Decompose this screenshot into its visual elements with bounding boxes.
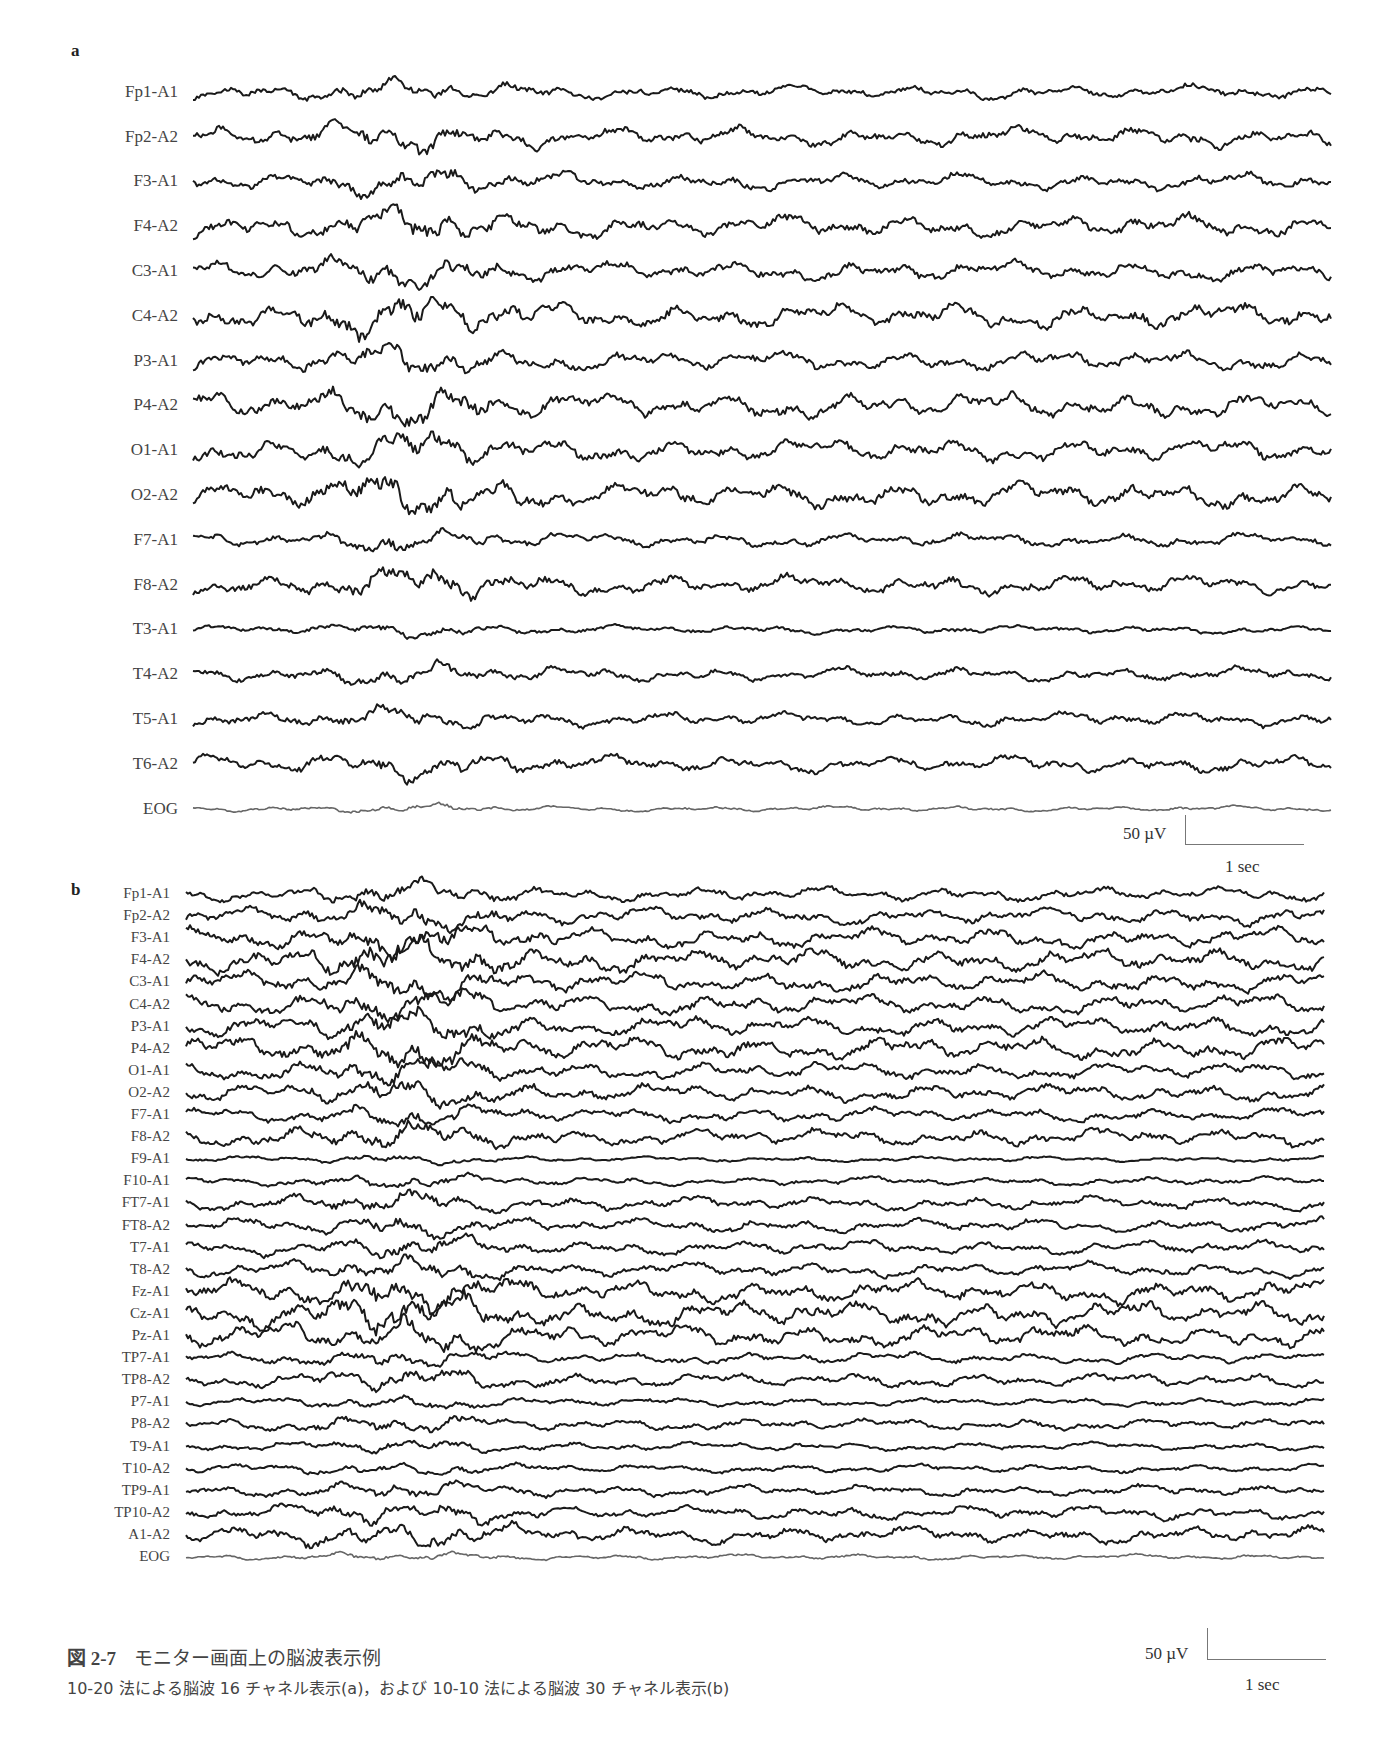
eeg-trace bbox=[186, 1462, 1324, 1475]
eeg-trace bbox=[193, 387, 1331, 427]
figure-caption-subtitle: 10-20 法による脳波 16 チャネル表示(a)，および 10-10 法による… bbox=[67, 1675, 729, 1699]
eeg-trace bbox=[186, 1441, 1324, 1454]
eeg-trace bbox=[193, 432, 1331, 468]
eeg-trace bbox=[186, 1416, 1324, 1432]
eeg-trace bbox=[193, 76, 1331, 101]
eeg-trace bbox=[186, 1057, 1324, 1085]
eeg-trace bbox=[186, 1277, 1324, 1316]
eeg-trace bbox=[193, 119, 1331, 154]
eeg-trace bbox=[186, 935, 1324, 976]
panel-b-time-scale-label: 1 sec bbox=[1245, 1675, 1279, 1695]
eeg-trace bbox=[193, 297, 1331, 342]
eeg-trace bbox=[193, 343, 1331, 373]
figure-title: モニター画面上の脳波表示例 bbox=[134, 1647, 381, 1669]
eeg-trace bbox=[193, 567, 1331, 601]
eeg-trace bbox=[186, 988, 1324, 1022]
eeg-trace bbox=[186, 1371, 1324, 1393]
eeg-trace bbox=[193, 170, 1331, 199]
eeg-trace bbox=[193, 204, 1331, 239]
eeg-trace bbox=[186, 1504, 1324, 1526]
eeg-trace bbox=[186, 1190, 1324, 1214]
eeg-trace bbox=[193, 704, 1331, 729]
panel-a-amplitude-scale-label: 50 µV bbox=[1123, 824, 1166, 844]
eeg-trace bbox=[186, 1254, 1324, 1280]
panel-a-time-scale-label: 1 sec bbox=[1225, 857, 1259, 877]
eeg-trace bbox=[186, 1314, 1324, 1352]
eeg-trace bbox=[186, 1156, 1324, 1166]
eeg-trace bbox=[193, 754, 1331, 785]
eeg-trace bbox=[186, 1395, 1324, 1408]
figure-number: 図 2-7 bbox=[67, 1648, 116, 1669]
eeg-trace bbox=[193, 477, 1331, 514]
eeg-trace bbox=[193, 254, 1331, 290]
eeg-trace bbox=[186, 1233, 1324, 1258]
eeg-traces bbox=[0, 0, 1400, 1761]
panel-b-scale-bar bbox=[1207, 1628, 1326, 1660]
eeg-trace bbox=[186, 1551, 1324, 1560]
eeg-trace bbox=[186, 877, 1324, 903]
eeg-trace bbox=[186, 965, 1324, 1002]
eeg-trace bbox=[186, 1104, 1324, 1126]
eeg-trace bbox=[193, 528, 1331, 551]
eeg-trace bbox=[186, 1352, 1324, 1367]
eeg-trace bbox=[186, 1289, 1324, 1335]
panel-a-scale-bar bbox=[1185, 815, 1304, 845]
eeg-trace bbox=[186, 1480, 1324, 1498]
figure-caption-title: 図 2-7 モニター画面上の脳波表示例 bbox=[67, 1643, 381, 1670]
eeg-trace bbox=[186, 1121, 1324, 1150]
eeg-trace bbox=[193, 802, 1331, 813]
eeg-trace bbox=[193, 624, 1331, 639]
eeg-trace bbox=[186, 900, 1324, 933]
eeg-trace bbox=[186, 1173, 1324, 1188]
eeg-trace bbox=[186, 1521, 1324, 1548]
eeg-trace bbox=[193, 659, 1331, 685]
panel-b-amplitude-scale-label: 50 µV bbox=[1145, 1644, 1188, 1664]
eeg-trace bbox=[186, 1216, 1324, 1239]
eeg-trace bbox=[186, 1031, 1324, 1068]
